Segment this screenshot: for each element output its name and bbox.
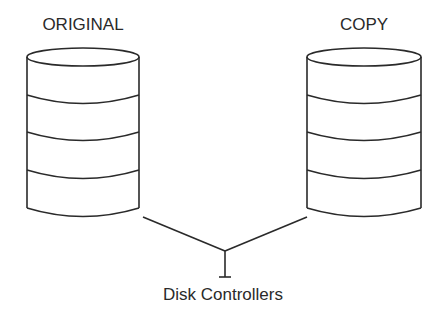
controller-connector — [143, 217, 307, 277]
diagram-canvas — [0, 0, 440, 324]
disk-controllers-label: Disk Controllers — [163, 285, 283, 305]
original-disk-label: ORIGINAL — [42, 15, 123, 35]
copy-disk-label: COPY — [340, 15, 388, 35]
original-disk-icon — [27, 48, 139, 217]
copy-disk-icon — [307, 48, 421, 217]
